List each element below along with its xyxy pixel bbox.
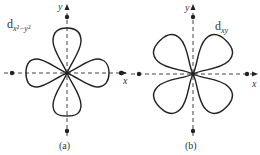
top-dot-a [65,15,69,19]
orbital-label-a: dx²−y² [7,17,31,33]
lobe-lower-left-b [148,63,204,119]
x-arrow-icon-b [252,72,258,77]
orbital-label-b: dxy [215,19,229,35]
figure-a: dx²−y² y x (a) [4,1,128,152]
orbital-diagram: dx²−y² y x (a) y x dxy (b) [0,0,260,155]
x-axis-label-a: x [122,75,128,86]
lobe-lower-right-b [182,63,238,119]
y-axis-label-a: y [57,1,63,12]
top-dot-b [191,15,195,19]
lobe-upper-left-b [148,29,204,85]
caption-b: (b) [185,140,197,152]
left-dot-b [137,72,141,76]
y-arrow-icon-a [65,4,70,10]
bottom-dot-a [65,129,69,133]
y-arrow-icon-b [191,4,196,10]
right-dot-b [245,72,249,76]
bottom-dot-b [191,129,195,133]
y-axis-label-b: y [184,2,190,13]
x-axis-label-b: x [251,78,257,89]
figure-b: y x dxy (b) [127,2,260,152]
caption-a: (a) [59,140,70,152]
lobe-upper-right-b [182,29,238,85]
left-dot-a [10,71,14,75]
